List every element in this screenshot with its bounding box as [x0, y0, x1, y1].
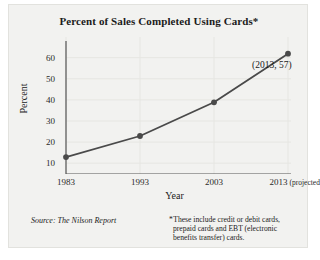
- data-point: [285, 51, 291, 57]
- x-tick-year: 2013: [270, 177, 288, 187]
- data-point: [63, 154, 69, 160]
- y-axis-label: Percent: [18, 69, 29, 129]
- source-note: Source: The Nilson Report: [31, 216, 116, 225]
- x-tick-label-projected: 2013 (projected): [270, 177, 316, 187]
- x-tick-label: 1993: [131, 177, 149, 187]
- x-tick-label: 2003: [205, 177, 223, 187]
- y-tick-label: 30: [33, 116, 55, 126]
- asterisk-line-3: benefits transfer) cards.: [169, 233, 304, 242]
- asterisk-line-2: prepaid cards and EBT (electronic: [169, 224, 304, 233]
- y-tick-label: 50: [33, 74, 55, 84]
- data-point: [211, 99, 217, 105]
- asterisk-line-1: These include credit or debit cards,: [173, 215, 280, 224]
- plot-area: [58, 37, 291, 174]
- y-axis-ticks: 10 20 30 40 50 60: [31, 37, 55, 174]
- y-tick-label: 40: [33, 95, 55, 105]
- y-tick-label: 20: [33, 137, 55, 147]
- chart-title: Percent of Sales Completed Using Cards*: [9, 15, 309, 27]
- data-point: [137, 133, 143, 139]
- data-point-annotation: (2013, 57): [252, 60, 292, 70]
- x-tick-projected-note: (projected): [288, 178, 316, 187]
- x-tick-label: 1983: [57, 177, 75, 187]
- y-tick-label: 60: [33, 53, 55, 63]
- asterisk-footnote: *These include credit or debit cards,pre…: [169, 215, 304, 243]
- x-axis-ticks: 1983 1993 2003 2013 (projected): [58, 177, 298, 191]
- x-axis-label: Year: [58, 190, 291, 201]
- chart-panel: Percent of Sales Completed Using Cards*: [8, 4, 308, 248]
- y-tick-label: 10: [33, 158, 55, 168]
- line-chart-svg: [58, 37, 291, 174]
